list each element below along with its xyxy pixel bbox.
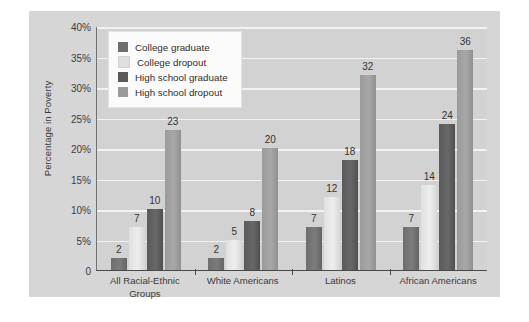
bar-value-label: 8 (249, 207, 255, 218)
chart-figure: Percentage in Poverty 40%35%30%25%20%15%… (29, 11, 500, 297)
x-axis-label: White Americans (194, 275, 292, 300)
legend-item: High school dropout (118, 85, 228, 99)
bar-value-label: 18 (344, 146, 355, 157)
bar-value-label: 7 (311, 213, 317, 224)
legend-swatch-icon (118, 42, 128, 52)
bar[interactable]: 32 (360, 75, 376, 270)
legend-item: College graduate (118, 40, 228, 54)
bar[interactable]: 12 (324, 197, 340, 270)
bar-value-label: 24 (442, 110, 453, 121)
bar[interactable]: 7 (306, 227, 322, 270)
bar-value-label: 20 (265, 134, 276, 145)
y-tick-label: 5% (77, 235, 91, 246)
y-tick-label: 20% (71, 144, 91, 155)
bar[interactable]: 20 (262, 148, 278, 270)
x-axis-label: All Racial-Ethnic Groups (96, 275, 194, 300)
bar-slot: 24 (439, 27, 455, 270)
bar[interactable]: 8 (244, 221, 260, 270)
bar-value-label: 14 (424, 171, 435, 182)
bar[interactable]: 7 (129, 227, 145, 270)
y-tick-label: 15% (71, 174, 91, 185)
bar-slot: 7 (306, 27, 322, 270)
bar-value-label: 36 (460, 36, 471, 47)
legend-item: High school graduate (118, 70, 228, 84)
legend-label: High school dropout (135, 87, 222, 98)
chart-legend: College graduate College dropout High sc… (108, 31, 242, 108)
x-axis-label: African Americans (389, 275, 487, 300)
bar-slot: 12 (324, 27, 340, 270)
bar-slot: 7 (403, 27, 419, 270)
bar[interactable]: 23 (165, 130, 181, 270)
bar-value-label: 7 (134, 213, 140, 224)
x-axis-labels: All Racial-Ethnic GroupsWhite AmericansL… (96, 275, 487, 300)
bar[interactable]: 2 (208, 258, 224, 270)
y-tick-label: 25% (71, 113, 91, 124)
bar-value-label: 10 (149, 195, 160, 206)
x-axis-label: Latinos (292, 275, 390, 300)
plot-area: College graduate College dropout High sc… (96, 27, 487, 271)
bar[interactable]: 36 (457, 50, 473, 270)
legend-label: High school graduate (135, 72, 228, 83)
legend-label: College graduate (135, 42, 210, 53)
bar-slot: 36 (457, 27, 473, 270)
bar[interactable]: 18 (342, 160, 358, 270)
y-axis-ticks: 40%35%30%25%20%15%10%5%0 (29, 11, 96, 255)
legend-swatch-icon (118, 72, 128, 82)
bar-slot: 14 (421, 27, 437, 270)
bar-value-label: 5 (231, 226, 237, 237)
y-tick-label: 0 (85, 266, 91, 277)
bar[interactable]: 2 (111, 258, 127, 270)
bar[interactable]: 10 (147, 209, 163, 270)
bar-value-label: 12 (326, 183, 337, 194)
bar-value-label: 2 (213, 244, 219, 255)
bar[interactable]: 7 (403, 227, 419, 270)
bar-group: 7121832 (292, 27, 390, 270)
bar[interactable]: 14 (421, 185, 437, 270)
legend-label: College dropout (137, 57, 206, 68)
y-tick-label: 30% (71, 83, 91, 94)
bar-value-label: 32 (362, 61, 373, 72)
legend-swatch-icon (118, 87, 128, 97)
bar[interactable]: 5 (226, 240, 242, 271)
bar-value-label: 2 (116, 244, 122, 255)
legend-swatch-icon (118, 56, 130, 68)
bar[interactable]: 24 (439, 124, 455, 270)
bar-group: 7142436 (390, 27, 488, 270)
bar-slot: 32 (360, 27, 376, 270)
y-tick-label: 10% (71, 205, 91, 216)
bar-value-label: 7 (408, 213, 414, 224)
y-tick-label: 40% (71, 22, 91, 33)
y-tick-label: 35% (71, 52, 91, 63)
legend-item: College dropout (118, 55, 228, 69)
bar-slot: 8 (244, 27, 260, 270)
bar-slot: 20 (262, 27, 278, 270)
bar-value-label: 23 (167, 116, 178, 127)
bar-slot: 18 (342, 27, 358, 270)
